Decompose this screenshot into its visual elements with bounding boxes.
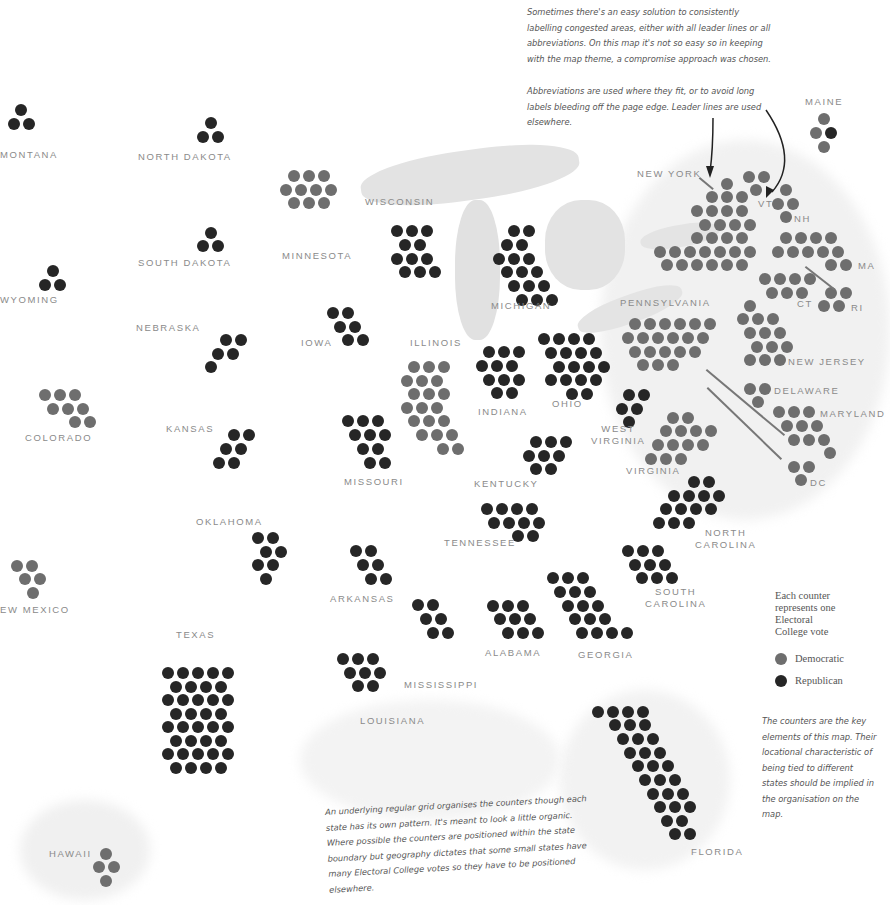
republican-counter <box>622 545 634 557</box>
republican-counter <box>825 127 837 139</box>
democratic-counter <box>704 318 716 330</box>
democratic-counter <box>705 425 717 437</box>
republican-counter <box>197 240 209 252</box>
republican-counter <box>623 389 635 401</box>
republican-counter <box>568 361 580 373</box>
republican-counter <box>220 443 232 455</box>
republican-counter <box>506 387 518 399</box>
republican-counter <box>560 436 572 448</box>
republican-counter <box>669 801 681 813</box>
democratic-counter <box>780 232 792 244</box>
republican-counter <box>365 573 377 585</box>
republican-counter <box>516 266 528 278</box>
republican-counter <box>624 719 636 731</box>
republican-counter <box>429 266 441 278</box>
democratic-counter <box>736 232 748 244</box>
state-label-kansas: KANSAS <box>166 423 214 434</box>
democratic-counter <box>772 198 784 210</box>
republican-counter <box>524 613 536 625</box>
democratic-counter <box>675 453 687 465</box>
republican-counter <box>412 599 424 611</box>
democratic-counter <box>781 341 793 353</box>
republican-counter <box>496 503 508 515</box>
democratic-counter <box>750 184 762 196</box>
republican-counter <box>8 118 20 130</box>
republican-counter <box>576 627 588 639</box>
republican-counter <box>205 361 217 373</box>
democratic-counter <box>303 170 315 182</box>
democratic-counter <box>652 439 664 451</box>
democratic-counter <box>744 354 756 366</box>
democratic-counter <box>622 332 634 344</box>
democratic-counter <box>674 346 686 358</box>
state-label-south-dakota: SOUTH DAKOTA <box>138 257 231 268</box>
democratic-counter <box>676 259 688 271</box>
republican-counter <box>568 333 580 345</box>
note-bottom: An underlying regular grid organises the… <box>325 791 592 898</box>
republican-counter <box>192 748 204 760</box>
republican-counter <box>215 762 227 774</box>
democratic-counter <box>644 346 656 358</box>
democratic-counter <box>818 434 830 446</box>
republican-counter <box>260 573 272 585</box>
state-label-florida: FLORIDA <box>691 846 743 857</box>
republican-counter <box>553 333 565 345</box>
republican-counter <box>342 415 354 427</box>
republican-counter <box>637 545 649 557</box>
democratic-counter <box>84 416 96 428</box>
democratic-counter <box>108 861 120 873</box>
democratic-counter <box>736 259 748 271</box>
republican-counter <box>177 694 189 706</box>
democratic-counter <box>744 300 756 312</box>
republican-counter <box>350 545 362 557</box>
democratic-counter <box>774 354 786 366</box>
republican-counter <box>629 559 641 571</box>
republican-counter <box>342 307 354 319</box>
republican-counter <box>207 667 219 679</box>
republican-counter <box>569 613 581 625</box>
democratic-counter <box>660 425 672 437</box>
state-label-dc: DC <box>810 477 827 488</box>
republican-counter <box>391 253 403 265</box>
state-label-north-carolina: NORTHCAROLINA <box>695 527 756 551</box>
democratic-counter <box>766 341 778 353</box>
republican-counter <box>590 347 602 359</box>
democratic-counter <box>431 402 443 414</box>
democratic-counter <box>423 415 435 427</box>
republican-counter <box>275 546 287 558</box>
democratic-counter <box>318 197 330 209</box>
republican-counter <box>644 559 656 571</box>
republican-counter <box>222 694 234 706</box>
republican-counter <box>352 653 364 665</box>
republican-counter <box>651 572 663 584</box>
democratic-counter <box>303 197 315 209</box>
democratic-counter <box>660 453 672 465</box>
democratic-counter <box>644 318 656 330</box>
republican-counter <box>632 760 644 772</box>
state-label-oklahoma: OKLAHOMA <box>196 516 263 527</box>
republican-counter <box>583 361 595 373</box>
state-label-new-jersey: NEW JERSEY <box>788 356 866 367</box>
republican-counter <box>523 280 535 292</box>
democratic-counter <box>62 403 74 415</box>
republican-counter <box>252 532 264 544</box>
democratic-counter <box>736 191 748 203</box>
republican-counter <box>632 733 644 745</box>
republican-counter <box>359 667 371 679</box>
democratic-counter <box>795 232 807 244</box>
democratic-counter <box>438 388 450 400</box>
democratic-counter <box>803 434 815 446</box>
republican-counter <box>575 374 587 386</box>
republican-counter <box>508 225 520 237</box>
democratic-counter <box>721 259 733 271</box>
republican-counter <box>380 573 392 585</box>
republican-counter <box>647 733 659 745</box>
republican-counter <box>654 774 666 786</box>
republican-counter <box>538 450 550 462</box>
state-label-ct: CT <box>797 298 813 309</box>
democratic-counter <box>295 184 307 196</box>
republican-counter <box>509 613 521 625</box>
democratic-counter <box>438 415 450 427</box>
democratic-counter <box>401 375 413 387</box>
state-label-ri: RI <box>851 302 864 313</box>
